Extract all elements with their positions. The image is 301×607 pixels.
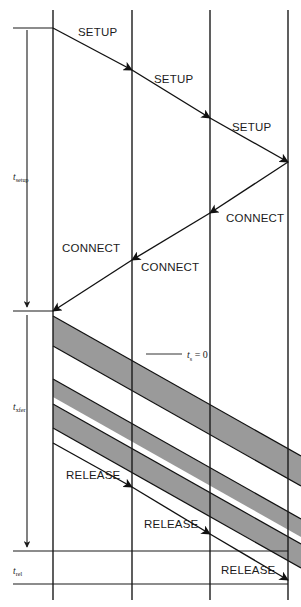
ts-zero-annotation: ts= 0 [146, 349, 208, 362]
message-label-release-3: RELEASE [221, 564, 276, 576]
timing-diagram: SETUP SETUP SETUP CONNECT CONNECT CONNEC… [0, 0, 301, 607]
data-band-3 [53, 404, 301, 568]
svg-text:ts= 0: ts= 0 [187, 349, 208, 362]
interval-label-setup: tsetup [13, 172, 29, 183]
message-label-connect-1: CONNECT [226, 212, 284, 224]
message-label-connect-3: CONNECT [62, 242, 120, 254]
timelines [53, 10, 288, 600]
message-arrow-connect-3 [53, 260, 132, 311]
message-label-connect-2: CONNECT [141, 261, 199, 273]
message-label-setup-1: SETUP [78, 26, 117, 38]
message-arrow-connect-2 [132, 213, 210, 260]
interval-label-xfer: txfer [13, 402, 26, 413]
diagram-canvas: SETUP SETUP SETUP CONNECT CONNECT CONNEC… [0, 0, 301, 607]
interval-subscript-setup: setup [16, 176, 29, 183]
interval-label-rel: trel [13, 566, 22, 577]
message-label-release-1: RELEASE [66, 469, 121, 481]
interval-subscript-rel: rel [16, 570, 23, 577]
message-label-setup-2: SETUP [154, 73, 193, 85]
message-arrow-connect-1 [210, 162, 288, 213]
ts-zero-subscript: s [190, 355, 193, 362]
message-label-setup-3: SETUP [232, 121, 271, 133]
ts-zero-equals: = 0 [195, 349, 208, 360]
message-label-release-2: RELEASE [144, 518, 199, 530]
interval-labels: tsetup txfer trel [13, 172, 29, 577]
interval-subscript-xfer: xfer [16, 406, 26, 413]
